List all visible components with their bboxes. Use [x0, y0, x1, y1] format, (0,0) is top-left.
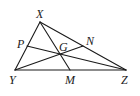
point-label-m: M	[64, 73, 76, 87]
triangle-diagram: X P G N Y M Z	[0, 0, 140, 96]
diagram-svg: X P G N Y M Z	[0, 0, 140, 96]
point-label-p: P	[16, 37, 25, 51]
vertex-label-y: Y	[9, 73, 17, 87]
point-label-n: N	[85, 34, 95, 48]
centroid-label-g: G	[59, 40, 68, 54]
vertex-label-z: Z	[121, 73, 128, 87]
vertex-label-x: X	[35, 7, 44, 21]
median-zp	[27, 46, 126, 70]
